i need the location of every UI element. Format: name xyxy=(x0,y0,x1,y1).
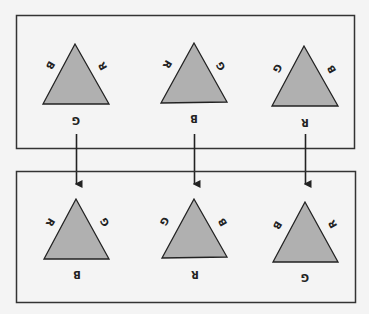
top-triangle-1-right-label: R xyxy=(96,60,110,72)
bottom-triangle-2-right-label: B xyxy=(216,216,229,228)
bottom-triangle-2-bottom-label: R xyxy=(191,269,199,280)
top-triangle-1-bottom-label: G xyxy=(72,115,80,126)
bottom-triangle-2-left-label: G xyxy=(158,215,172,228)
top-triangle-2-left-label: R xyxy=(161,58,175,70)
top-triangle-3: G B R xyxy=(271,46,339,128)
bottom-triangle-1-bottom-label: B xyxy=(73,269,81,280)
bottom-triangle-3-right-label: R xyxy=(326,218,340,230)
top-triangle-1: B R G xyxy=(43,44,109,126)
top-triangle-3-bottom-label: R xyxy=(301,117,309,128)
bottom-triangle-3-bottom-label: G xyxy=(301,272,309,283)
bottom-triangle-1-right-label: G xyxy=(98,216,112,229)
top-triangle-3-right-label: B xyxy=(325,63,338,75)
top-triangle-2: R G B xyxy=(161,43,228,124)
bottom-triangle-2: G B R xyxy=(158,199,230,280)
diagram-canvas: B R G R G B G B R R G B G B R B R G xyxy=(0,0,369,314)
bottom-triangle-1-left-label: R xyxy=(44,216,58,228)
top-triangle-2-right-label: G xyxy=(214,60,228,73)
bottom-triangle-3: B R G xyxy=(271,202,339,283)
top-triangle-3-left-label: G xyxy=(271,62,285,75)
bottom-triangle-1: R G B xyxy=(44,199,112,280)
top-triangle-2-bottom-label: B xyxy=(190,113,198,124)
top-triangle-1-left-label: B xyxy=(44,59,57,71)
bottom-triangle-3-left-label: B xyxy=(271,219,284,231)
